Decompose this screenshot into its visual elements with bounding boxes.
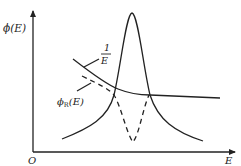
flux-diagram: ϕ(E) E O 1 E ϕR(E) xyxy=(0,0,241,166)
x-axis-label: E xyxy=(224,155,233,166)
y-axis-label: ϕ(E) xyxy=(3,22,26,34)
phi-r-leader xyxy=(77,83,91,91)
one-over-e-denominator: E xyxy=(100,55,108,66)
one-over-e-numerator: 1 xyxy=(104,42,110,53)
one-over-e-leader xyxy=(84,59,99,67)
phi-r-label: ϕR(E) xyxy=(57,96,84,109)
origin-label: O xyxy=(28,155,36,166)
